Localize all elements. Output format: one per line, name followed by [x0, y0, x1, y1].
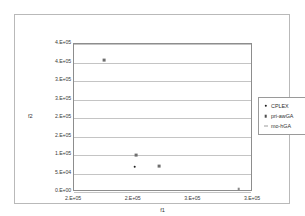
x-tick-label: 3.E+05 — [172, 195, 212, 201]
legend-item-cplex[interactable]: CPLEX — [262, 101, 305, 111]
y-tick-label: 4.E+05 — [37, 59, 71, 64]
y-tick-label: 1.E+05 — [37, 151, 71, 156]
x-tick-label: 2.E+05 — [113, 195, 153, 201]
figure-frame: 4.E+054.E+053.E+053.E+052.E+052.E+051.E+… — [14, 14, 290, 204]
data-point-pri-awga — [135, 154, 138, 157]
gridline — [74, 100, 251, 101]
y-tick-label: 5.E+04 — [37, 170, 71, 175]
y-tick-label: 4.E+05 — [37, 40, 71, 45]
scan-caption — [6, 0, 206, 8]
data-point-pri-awga — [157, 165, 160, 168]
y-axis-title: f2 — [28, 113, 33, 119]
data-point-mo-hga — [237, 188, 240, 191]
legend-item-pri-awga[interactable]: pri-awGA — [262, 111, 305, 121]
gridline — [74, 174, 251, 175]
plot-area — [73, 43, 252, 191]
legend-item-label: CPLEX — [271, 103, 289, 109]
dash-marker-icon — [262, 122, 269, 130]
x-tick-label: 2.E+05 — [53, 195, 93, 201]
y-tick-label: 2.E+05 — [37, 114, 71, 119]
x-axis-title: f1 — [73, 207, 252, 213]
y-tick-label: 0.E+00 — [37, 188, 71, 193]
gridline — [74, 137, 251, 138]
data-point-pri-awga — [102, 59, 105, 62]
legend-item-label: mo-hGA — [271, 123, 291, 129]
y-tick-label: 3.E+05 — [37, 77, 71, 82]
gridline — [74, 192, 251, 193]
gridline — [74, 63, 251, 64]
square-marker-icon — [262, 112, 269, 120]
gridline — [74, 81, 251, 82]
legend-item-label: pri-awGA — [271, 113, 293, 119]
x-axis-tick-labels: 2.E+052.E+053.E+053.E+05 — [73, 195, 252, 204]
y-tick-label: 2.E+05 — [37, 133, 71, 138]
legend-item-mo-hga[interactable]: mo-hGA — [262, 121, 305, 131]
gridline — [74, 155, 251, 156]
gridline — [74, 44, 251, 45]
dot-marker-icon — [262, 102, 269, 110]
x-tick-label: 3.E+05 — [232, 195, 272, 201]
chart-legend: CPLEXpri-awGAmo-hGA — [258, 97, 305, 135]
data-point-cplex — [134, 166, 137, 169]
y-axis-tick-labels: 4.E+054.E+053.E+053.E+052.E+052.E+051.E+… — [35, 43, 71, 191]
gridline — [74, 118, 251, 119]
y-tick-label: 3.E+05 — [37, 96, 71, 101]
